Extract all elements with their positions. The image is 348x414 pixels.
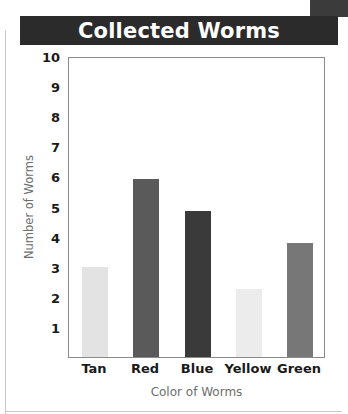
bar-yellow (236, 289, 262, 357)
bar-red (133, 179, 159, 357)
x-axis-tick-tan: Tan (81, 361, 106, 376)
y-axis-tick-10: 10 (34, 50, 60, 65)
y-axis-tick-6: 6 (34, 170, 60, 185)
x-axis-tick-blue: Blue (181, 361, 213, 376)
y-axis-tick-labels: 10987654321 (34, 57, 60, 358)
y-axis-tick-3: 3 (34, 260, 60, 275)
bar-tan (82, 267, 108, 357)
bar-chart: Number of Worms 10987654321 TanRedBlueYe… (0, 45, 348, 414)
bar-green (287, 243, 313, 357)
plot-area (68, 57, 325, 358)
corner-decoration-block (310, 0, 348, 17)
bars-container (69, 58, 324, 357)
bar-blue (185, 211, 211, 357)
y-axis-tick-1: 1 (34, 320, 60, 335)
y-axis-tick-5: 5 (34, 200, 60, 215)
y-axis-tick-4: 4 (34, 230, 60, 245)
chart-title-banner: Collected Worms (20, 16, 338, 45)
page-title: Collected Worms (78, 19, 280, 43)
y-axis-tick-8: 8 (34, 110, 60, 125)
x-axis-tick-yellow: Yellow (225, 361, 272, 376)
y-axis-tick-9: 9 (34, 80, 60, 95)
x-axis-tick-red: Red (131, 361, 159, 376)
y-axis-tick-7: 7 (34, 140, 60, 155)
y-axis-tick-2: 2 (34, 290, 60, 305)
x-axis-title: Color of Worms (68, 385, 325, 399)
chart-screenshot: Collected Worms Number of Worms 10987654… (0, 0, 348, 414)
x-axis-tick-labels: TanRedBlueYellowGreen (68, 361, 325, 381)
x-axis-tick-green: Green (277, 361, 321, 376)
